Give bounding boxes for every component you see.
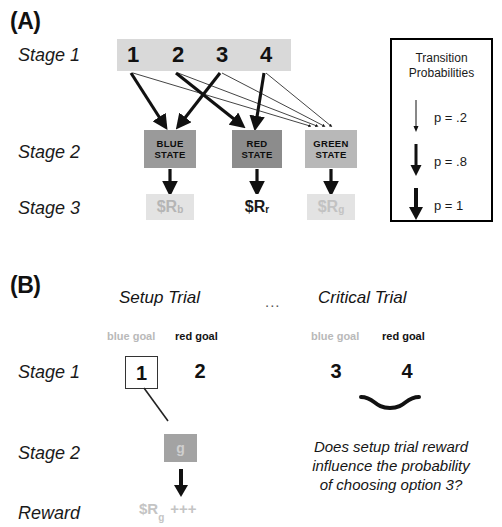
setup-reward-subscript: g: [158, 512, 164, 523]
critical-question-line3: of choosing option 3?: [283, 475, 499, 494]
critical-trial-question: Does setup trial reward influence the pr…: [283, 437, 499, 495]
setup-reward-plus: +++: [170, 500, 196, 517]
critical-question-line1: Does setup trial reward: [283, 437, 499, 456]
setup-reward: $Rg+++: [139, 501, 197, 520]
setup-reward-symbol: $R: [139, 500, 158, 517]
critical-question-line2: influence the probability: [283, 456, 499, 475]
figure-root: (A) Stage 1 1 2 3 4: [0, 0, 502, 527]
